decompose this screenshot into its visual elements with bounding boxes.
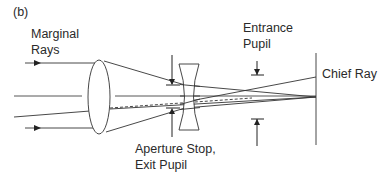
marginal-ray-arrow-icons [34,60,41,131]
aperture-stop-label-line2: Exit Pupil [135,157,216,173]
marginal-rays-label-line2: Rays [31,42,79,58]
chief-ray-label: Chief Ray [322,66,377,82]
entrance-pupil-label-line1: Entrance [243,20,293,36]
chief-ray [110,77,316,109]
convex-lens [88,60,110,134]
marginal-rays-converging [104,61,316,132]
aperture-stop-label-line1: Aperture Stop, [135,141,216,157]
entrance-pupil-arrow-icons [254,69,260,125]
chief-ray-incoming [14,111,90,117]
concave-lens [179,64,199,130]
panel-label: (b) [13,4,28,20]
marginal-rays-label: Marginal Rays [31,26,79,58]
entrance-pupil-label-line2: Pupil [243,36,293,52]
marginal-rays-label-line1: Marginal [31,26,79,42]
entrance-pupil-label: Entrance Pupil [243,20,293,52]
aperture-stop-label: Aperture Stop, Exit Pupil [135,141,216,173]
aperture-stop-arrow-icons [169,79,175,114]
